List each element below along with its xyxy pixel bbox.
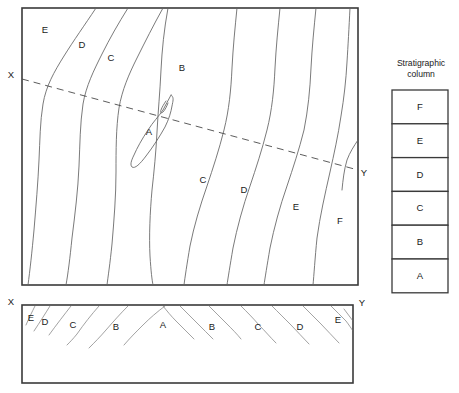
section-unit-label-c-east: C <box>255 321 262 332</box>
contact-line-e-f-east <box>313 8 350 285</box>
strat-cell-label-d: D <box>417 169 424 180</box>
contact-line-c-b-west <box>107 8 163 285</box>
section-unit-label-e-east: E <box>335 314 341 325</box>
section-unit-label-b-west: B <box>113 321 119 332</box>
cross-section-frame <box>22 305 353 383</box>
contact-line-b-c-core-west <box>150 8 168 285</box>
section-bed-crest <box>163 306 194 339</box>
section-unit-label-b-east: B <box>209 321 215 332</box>
map-unit-label-c-nw: C <box>108 52 115 63</box>
section-label-x: X <box>8 296 15 307</box>
section-unit-label-a-core: A <box>160 319 167 330</box>
strat-cell-label-a: A <box>417 270 424 281</box>
map-unit-label-e-nw: E <box>42 24 48 35</box>
map-section-label-y: Y <box>361 167 368 178</box>
strat-cell-label-b: B <box>417 236 423 247</box>
map-unit-label-b-center: B <box>179 62 185 73</box>
contact-line-e-d-west <box>28 8 96 285</box>
contact-line-d-c-west <box>66 8 128 285</box>
contact-line-c-d-east <box>227 8 280 285</box>
map-unit-label-e-se: E <box>293 201 299 212</box>
map-unit-label-c-se: C <box>200 174 207 185</box>
stratigraphic-column-panel: Stratigraphic column F E D C B A <box>392 58 448 293</box>
section-bed-east-4 <box>272 306 309 344</box>
map-unit-label-f-se: F <box>337 215 343 226</box>
contact-line-f-east-margin <box>342 140 358 190</box>
section-bed-east-7 <box>344 309 353 321</box>
section-bed-west-5 <box>89 306 128 348</box>
geologic-figure: E D C B A C D E F X Y <box>0 0 459 393</box>
section-unit-label-e-west: E <box>28 312 34 323</box>
section-unit-label-c-west: C <box>70 319 77 330</box>
strat-cell-label-e: E <box>417 135 423 146</box>
stratigraphic-column-title-line1: Stratigraphic <box>397 58 446 68</box>
section-unit-label-d-west: D <box>42 316 49 327</box>
map-contacts-group <box>28 8 358 285</box>
section-bed-east-5 <box>303 306 339 343</box>
stratigraphic-column-title-line2: column <box>407 69 435 79</box>
strat-cell-label-c: C <box>417 202 424 213</box>
section-bed-west-3 <box>49 306 71 335</box>
strat-cell-label-f: F <box>417 101 423 112</box>
section-unit-label-d-east: D <box>297 321 304 332</box>
map-section-label-x: X <box>8 69 15 80</box>
map-section-line-xy <box>22 79 358 170</box>
section-label-y: Y <box>359 297 366 308</box>
contact-line-b-c-east <box>184 8 237 285</box>
map-frame <box>22 8 358 285</box>
map-unit-label-a-core: A <box>146 126 153 137</box>
cross-section-panel: E D C B A B C D E X Y <box>8 296 366 383</box>
map-unit-label-d-se: D <box>241 184 248 195</box>
geologic-map-panel: E D C B A C D E F X Y <box>8 8 368 285</box>
map-unit-label-d-nw: D <box>79 39 86 50</box>
